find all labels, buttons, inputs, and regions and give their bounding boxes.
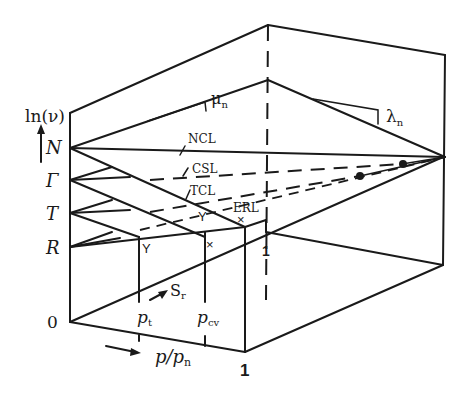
top-left-edge [70, 25, 268, 113]
pcv-label: pcv [197, 307, 219, 328]
critical-state-diagram: Y Y × × ln(ν) N Γ T R 0 NCL CSL TCL ERL … [0, 0, 468, 396]
mu-label: μn [211, 89, 228, 110]
ncl-label: NCL [188, 132, 216, 146]
bottom-right-edge [245, 265, 443, 352]
ncl-line [70, 148, 445, 157]
mu-subscript: n [221, 99, 228, 110]
lambda-symbol: λ [386, 106, 397, 126]
box-frame [70, 25, 445, 352]
lambda-subscript: n [397, 117, 404, 128]
pcv-symbol: p [197, 307, 208, 327]
tick-r: R [45, 237, 60, 258]
tcl-label: TCL [190, 184, 215, 198]
mu-slope-triangle [148, 102, 206, 121]
top-right-edge [268, 25, 445, 55]
origin-label: 0 [47, 312, 58, 332]
back-base-edge [266, 232, 443, 265]
csl-line [150, 164, 402, 180]
one-link [245, 220, 266, 227]
sr-label: Sr [170, 281, 186, 301]
lambda-label: λn [386, 106, 404, 128]
y-marker-pt: Y [142, 241, 151, 256]
pt-symbol: p [137, 307, 148, 327]
horizontal-axis-label: p/pn [155, 346, 191, 369]
csl-point [399, 160, 407, 168]
tcl-point [356, 172, 364, 180]
y-marker-pcv: Y [198, 209, 207, 224]
x-marker-pcv: × [206, 237, 214, 252]
p-ratio-subscript: n [184, 356, 191, 369]
sr-arrow-head-icon [158, 290, 168, 299]
mu-symbol: μ [211, 89, 221, 108]
csl-leader [183, 168, 188, 176]
csl-label: CSL [192, 162, 217, 176]
erl-label: ERL [233, 201, 259, 215]
tick-t: T [46, 203, 60, 224]
sr-diagonal [70, 157, 443, 322]
sr-symbol: S [170, 281, 181, 300]
tick-gamma: Γ [45, 170, 60, 191]
gamma-diagonal [70, 180, 205, 237]
lambda-line [268, 80, 445, 157]
front-one-label: 1 [240, 361, 249, 380]
tick-n: N [45, 137, 63, 158]
pt-label: pt [137, 307, 152, 328]
n-diagonal [70, 148, 245, 227]
p-arrow-head-icon [130, 348, 141, 356]
pt-subscript: t [148, 317, 152, 328]
vertical-axis-label: ln(ν) [25, 106, 65, 126]
t-diagonal [70, 213, 139, 237]
back-right-edge [443, 55, 445, 265]
dashed-lines [140, 157, 445, 230]
back-one-label: 1 [262, 243, 270, 259]
sr-subscript: r [181, 290, 186, 301]
pcv-subscript: cv [208, 317, 220, 328]
p-ratio-symbol: p/p [155, 346, 185, 367]
